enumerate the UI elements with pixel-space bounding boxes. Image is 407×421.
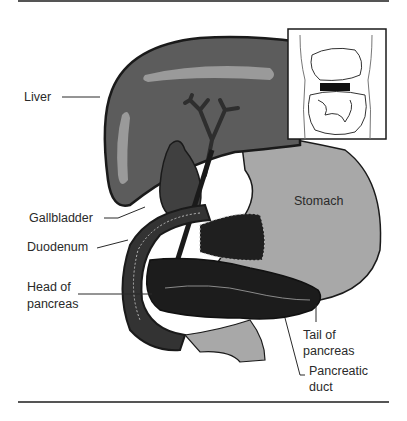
label-head-of-pancreas-1: Head of bbox=[27, 280, 71, 295]
label-pancreatic-duct-2: duct bbox=[309, 380, 333, 395]
label-stomach: Stomach bbox=[294, 194, 343, 209]
label-tail-of-pancreas-2: pancreas bbox=[303, 344, 354, 359]
label-gallbladder: Gallbladder bbox=[29, 211, 93, 226]
label-duodenum: Duodenum bbox=[27, 240, 88, 255]
label-pancreatic-duct-1: Pancreatic bbox=[309, 364, 368, 379]
label-tail-of-pancreas-1: Tail of bbox=[303, 328, 336, 343]
label-liver: Liver bbox=[24, 90, 51, 105]
inset-torso-diagram bbox=[288, 29, 386, 139]
jejunum-shape bbox=[185, 320, 265, 362]
label-head-of-pancreas-2: pancreas bbox=[27, 297, 78, 312]
